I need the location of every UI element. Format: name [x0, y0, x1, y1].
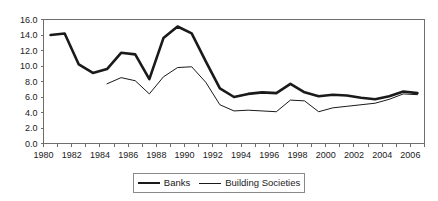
y-tick-label: 8.0: [25, 77, 38, 87]
legend-entry-banks: Banks: [138, 178, 190, 188]
series-line-banks: [51, 26, 418, 99]
y-tick-label: 2.0: [25, 123, 38, 133]
series-line-building-societies: [107, 67, 417, 112]
legend-swatch-banks: [138, 182, 160, 184]
x-tick-label: 2000: [316, 150, 336, 160]
y-tick-label: 4.0: [25, 108, 38, 118]
x-tick-label: 1996: [259, 150, 279, 160]
x-tick-label: 1992: [203, 150, 223, 160]
legend-label-banks: Banks: [164, 178, 190, 188]
line-chart: 0.02.04.06.08.010.012.014.016.0 19801982…: [0, 0, 438, 201]
x-tick-label: 2006: [400, 150, 420, 160]
plot-frame-border: [44, 20, 425, 144]
x-tick-label: 1990: [175, 150, 195, 160]
y-tick-label: 6.0: [25, 92, 38, 102]
y-tick-label: 12.0: [20, 46, 38, 56]
y-tick-label: 0.0: [25, 139, 38, 149]
x-tick-label: 1998: [287, 150, 307, 160]
x-tick-label: 1982: [62, 150, 82, 160]
chart-legend: Banks Building Societies: [133, 173, 305, 193]
y-axis-tick-labels: 0.02.04.06.08.010.012.014.016.0: [20, 15, 38, 149]
x-tick-label: 1994: [231, 150, 251, 160]
x-tick-label: 1988: [146, 150, 166, 160]
plot-frame: [44, 20, 425, 144]
x-tick-label: 1980: [33, 150, 53, 160]
y-tick-label: 10.0: [20, 61, 38, 71]
x-tick-label: 1984: [90, 150, 110, 160]
chart-series-lines: [51, 26, 418, 111]
legend-label-building-societies: Building Societies: [225, 178, 300, 188]
legend-swatch-building-societies: [199, 183, 221, 184]
x-axis-tick-labels: 1980198219841986198819901992199419961998…: [33, 150, 420, 160]
chart-plot-area: 0.02.04.06.08.010.012.014.016.0 19801982…: [0, 0, 438, 168]
legend-entry-building-societies: Building Societies: [199, 178, 300, 188]
x-tick-label: 2002: [344, 150, 364, 160]
x-tick-label: 1986: [118, 150, 138, 160]
x-tick-label: 2004: [372, 150, 392, 160]
y-tick-label: 16.0: [20, 15, 38, 25]
y-tick-label: 14.0: [20, 30, 38, 40]
